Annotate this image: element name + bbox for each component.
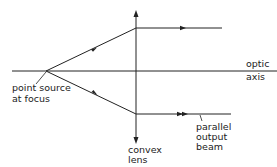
convex-lens xyxy=(134,10,139,144)
lower-beam-arrow2-icon xyxy=(182,112,188,116)
upper-beam-arrow-icon xyxy=(180,26,186,30)
optic-axis-label-2: axis xyxy=(246,71,265,82)
lower-ray xyxy=(46,71,231,116)
lens-top-arrow-icon xyxy=(134,10,139,17)
collimation-diagram: optic axis point source at focus convex … xyxy=(0,0,277,167)
lens-label-2: lens xyxy=(128,154,148,165)
point-source-label-1: point source xyxy=(12,82,71,93)
beam-label-3: beam xyxy=(196,141,223,152)
point-source-label-2: at focus xyxy=(12,93,50,104)
lens-bottom-arrow-icon xyxy=(134,137,139,144)
upper-ray xyxy=(46,26,222,71)
optic-axis-label-1: optic xyxy=(246,58,269,69)
